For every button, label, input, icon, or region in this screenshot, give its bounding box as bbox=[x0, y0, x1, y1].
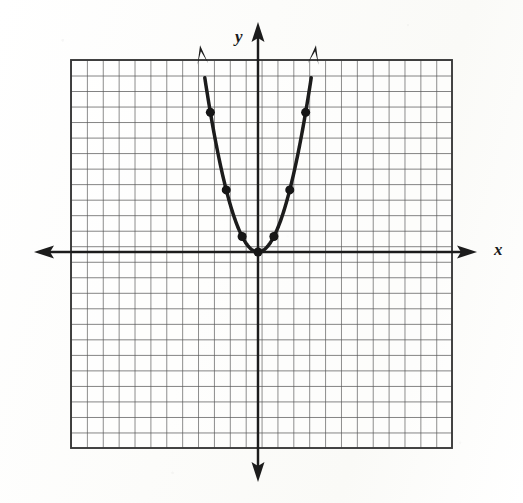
data-point bbox=[206, 108, 215, 117]
x-axis-label: x bbox=[494, 241, 503, 258]
graph-plot bbox=[0, 0, 523, 503]
data-point bbox=[222, 185, 231, 194]
figure-canvas: x y bbox=[0, 0, 523, 503]
data-point bbox=[254, 248, 263, 257]
data-point bbox=[285, 185, 294, 194]
data-point bbox=[238, 232, 247, 241]
data-point bbox=[301, 108, 310, 117]
data-point bbox=[269, 232, 278, 241]
y-axis-label: y bbox=[235, 28, 243, 45]
